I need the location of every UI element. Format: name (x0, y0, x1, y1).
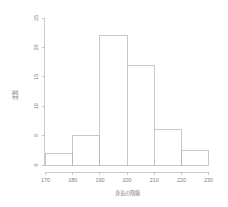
bar-170-180 (46, 153, 73, 165)
x-tick-label-190: 190 (95, 177, 104, 183)
bar-190-200 (100, 36, 127, 165)
x-tick-label-220: 220 (177, 177, 186, 183)
y-tick-label-10: 10 (33, 103, 39, 109)
bar-210-220 (154, 130, 181, 165)
y-tick-label-15: 15 (33, 74, 39, 80)
x-tick-label-230: 230 (204, 177, 213, 183)
x-tick-label-180: 180 (68, 177, 77, 183)
y-tick-label-5: 5 (33, 134, 39, 137)
bar-220-230 (182, 150, 209, 165)
y-tick-label-0: 0 (33, 164, 39, 167)
x-tick-label-210: 210 (150, 177, 159, 183)
histogram-chart: 0 5 10 15 20 25 度数 (0, 0, 228, 207)
y-axis-ticks (42, 18, 45, 165)
x-axis-title: 身長の階級 (115, 189, 140, 197)
y-axis-tick-labels: 0 5 10 15 20 25 (33, 15, 39, 167)
bar-180-190 (73, 136, 100, 165)
y-tick-label-20: 20 (33, 44, 39, 50)
y-axis-title: 度数 (11, 89, 19, 100)
x-axis-tick-labels: 170 180 190 200 210 220 230 (41, 177, 213, 183)
x-axis-ticks (46, 172, 209, 175)
bar-200-210 (127, 65, 154, 165)
histogram-screenshot: 0 5 10 15 20 25 度数 (0, 0, 228, 207)
plot-area: 0 5 10 15 20 25 度数 (0, 0, 228, 207)
x-tick-label-170: 170 (41, 177, 50, 183)
x-tick-label-200: 200 (123, 177, 132, 183)
histogram-bars (46, 36, 209, 165)
y-tick-label-25: 25 (33, 15, 39, 21)
